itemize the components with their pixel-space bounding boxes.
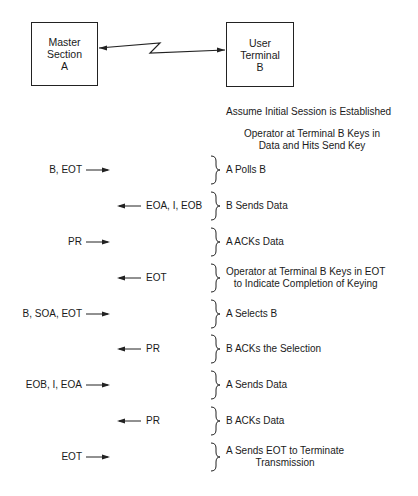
step-description: A Selects B [226, 308, 277, 320]
message-arrowhead [117, 276, 125, 281]
step-description-line1: A Sends EOT to Terminate [226, 445, 344, 457]
message-arrowhead [102, 312, 110, 317]
message-arrowhead [117, 419, 125, 424]
step-description-line1: A Selects B [226, 308, 277, 320]
step-description-line2: Transmission [226, 457, 344, 469]
step-message: EOA, I, EOB [146, 200, 202, 212]
step-description-line1: A Polls B [226, 164, 266, 176]
operator-note: Operator at Terminal B Keys in Data and … [226, 128, 398, 151]
step-description: A ACKs Data [226, 236, 284, 248]
message-arrowhead [117, 347, 125, 352]
step-description: A Polls B [226, 164, 266, 176]
step-description: Operator at Terminal B Keys in EOTto Ind… [226, 266, 385, 289]
assume-note: Assume Initial Session is Established [226, 106, 391, 118]
step-brace [211, 156, 220, 184]
step-brace [211, 407, 220, 435]
step-brace [211, 264, 220, 292]
step-description-line1: A Sends Data [226, 379, 287, 391]
step-description: A Sends Data [226, 379, 287, 391]
step-message: EOT [146, 272, 167, 284]
step-message: PR [68, 236, 82, 248]
step-description-line2: to Indicate Completion of Keying [226, 278, 385, 290]
step-brace [211, 300, 220, 328]
step-description-line1: A ACKs Data [226, 236, 284, 248]
step-description: A Sends EOT to TerminateTransmission [226, 445, 344, 468]
step-message: PR [146, 343, 160, 355]
step-description: B ACKs Data [226, 415, 284, 427]
step-description: B ACKs the Selection [226, 343, 321, 355]
communication-link [99, 43, 225, 53]
step-brace [211, 371, 220, 399]
step-description-line1: B Sends Data [226, 200, 288, 212]
step-brace [211, 228, 220, 256]
diagram-lines [0, 0, 418, 496]
message-arrowhead [117, 204, 125, 209]
link-arrowhead-left [99, 46, 107, 51]
step-message: B, SOA, EOT [23, 308, 82, 320]
step-brace [211, 192, 220, 220]
step-message: B, EOT [49, 164, 82, 176]
step-message: PR [146, 415, 160, 427]
step-brace [211, 335, 220, 363]
step-description: B Sends Data [226, 200, 288, 212]
step-message: EOT [61, 451, 82, 463]
step-description-line1: B ACKs the Selection [226, 343, 321, 355]
operator-note-line1: Operator at Terminal B Keys in [226, 128, 398, 140]
message-arrowhead [102, 455, 110, 460]
link-arrowhead-right [217, 48, 225, 53]
step-brace [211, 443, 220, 471]
step-description-line1: B ACKs Data [226, 415, 284, 427]
message-arrowhead [102, 240, 110, 245]
operator-note-line2: Data and Hits Send Key [226, 140, 398, 152]
step-message: EOB, I, EOA [26, 379, 82, 391]
message-arrowhead [102, 168, 110, 173]
step-description-line1: Operator at Terminal B Keys in EOT [226, 266, 385, 278]
message-arrowhead [102, 383, 110, 388]
